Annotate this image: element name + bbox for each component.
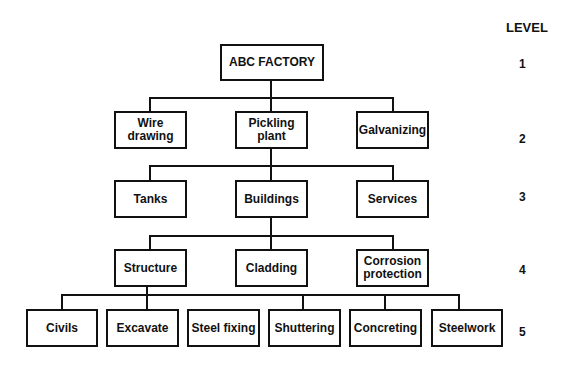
- connector-wire-drawing: [149, 97, 151, 111]
- node-label: Structure: [124, 262, 177, 275]
- node-steelwork: Steelwork: [431, 309, 503, 347]
- connector-root-trunk: [270, 80, 272, 111]
- connector-corrosion: [392, 235, 394, 249]
- connector-structure: [149, 235, 151, 249]
- connector-level5-bar: [61, 294, 460, 296]
- node-label: Excavate: [116, 322, 168, 335]
- connector-level3-bar: [149, 165, 394, 167]
- node-label: Steel fixing: [191, 322, 255, 335]
- node-label: Civils: [46, 322, 78, 335]
- node-excavate: Excavate: [106, 309, 179, 347]
- node-label: Cladding: [246, 262, 297, 275]
- connector-level2-bar: [149, 97, 394, 99]
- node-label: Galvanizing: [359, 124, 426, 137]
- level-number-3: 3: [519, 190, 526, 204]
- connector-steelwork: [458, 294, 460, 309]
- node-wire-drawing: Wire drawing: [114, 111, 187, 149]
- level-number-5: 5: [519, 325, 526, 339]
- node-label: Buildings: [244, 193, 299, 206]
- connector-buildings-trunk: [270, 218, 272, 249]
- node-abc-factory: ABC FACTORY: [220, 44, 324, 81]
- node-corrosion-protection: Corrosion protection: [356, 249, 429, 287]
- connector-services: [392, 165, 394, 180]
- connector-structure-trunk: [146, 287, 148, 309]
- node-label-line2: plant: [257, 130, 286, 143]
- node-galvanizing: Galvanizing: [356, 111, 429, 149]
- node-label: Shuttering: [275, 322, 335, 335]
- node-civils: Civils: [26, 309, 98, 347]
- level-header: LEVEL: [506, 20, 548, 35]
- level-number-2: 2: [519, 132, 526, 146]
- node-pickling-plant: Pickling plant: [235, 111, 308, 149]
- node-label-line2: drawing: [127, 130, 173, 143]
- node-label: Steelwork: [439, 322, 496, 335]
- connector-shuttering: [302, 294, 304, 309]
- node-tanks: Tanks: [114, 180, 187, 218]
- node-label: Services: [368, 193, 417, 206]
- connector-galvanizing: [392, 97, 394, 111]
- node-cladding: Cladding: [235, 249, 308, 287]
- connector-civils: [61, 294, 63, 309]
- node-concreting: Concreting: [349, 309, 422, 347]
- node-buildings: Buildings: [235, 180, 308, 218]
- connector-tanks: [149, 165, 151, 180]
- connector-concreting: [384, 294, 386, 309]
- node-steel-fixing: Steel fixing: [187, 309, 260, 347]
- node-label: ABC FACTORY: [229, 56, 315, 69]
- connector-level4-bar: [149, 235, 394, 237]
- node-shuttering: Shuttering: [268, 309, 341, 347]
- node-label-line2: protection: [363, 268, 422, 281]
- node-services: Services: [356, 180, 429, 218]
- node-label: Tanks: [134, 193, 168, 206]
- node-label: Concreting: [354, 322, 417, 335]
- level-number-4: 4: [519, 263, 526, 277]
- node-structure: Structure: [114, 249, 187, 287]
- level-number-1: 1: [519, 57, 526, 71]
